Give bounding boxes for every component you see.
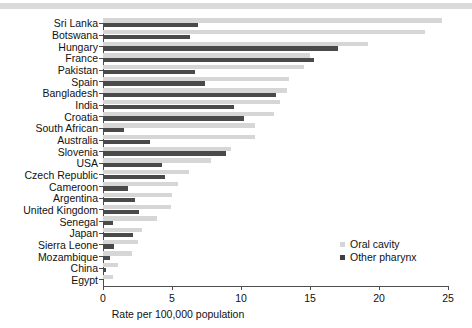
bar-oral-cavity bbox=[103, 18, 442, 22]
x-axis-tick-label: 0 bbox=[100, 292, 106, 304]
bar-other-pharynx bbox=[103, 70, 195, 74]
bar-row bbox=[103, 65, 448, 77]
x-axis-line bbox=[103, 286, 448, 287]
y-axis-category-label: Sri Lanka bbox=[54, 18, 98, 29]
y-axis-category-label: Croatia bbox=[64, 112, 98, 123]
bar-other-pharynx bbox=[103, 279, 104, 283]
y-axis-category-label: France bbox=[65, 53, 98, 64]
bar-oral-cavity bbox=[103, 100, 280, 104]
x-axis-tick bbox=[448, 286, 449, 290]
bar-oral-cavity bbox=[103, 158, 211, 162]
y-axis-category-label: Pakistan bbox=[58, 65, 98, 76]
x-axis-tick-label: 10 bbox=[235, 292, 247, 304]
bar-other-pharynx bbox=[103, 244, 114, 248]
bar-other-pharynx bbox=[103, 233, 133, 237]
bar-other-pharynx bbox=[103, 58, 314, 62]
bar-oral-cavity bbox=[103, 123, 255, 127]
y-axis-category-label: Egypt bbox=[71, 275, 98, 286]
x-axis-tick bbox=[103, 286, 104, 290]
bar-oral-cavity bbox=[103, 228, 142, 232]
x-axis-tick bbox=[241, 286, 242, 290]
bar-row bbox=[103, 88, 448, 100]
y-axis-category-label: Spain bbox=[71, 77, 98, 88]
legend-swatch-icon bbox=[340, 242, 345, 247]
y-axis-category-label: Botswana bbox=[52, 30, 98, 41]
bar-oral-cavity bbox=[103, 30, 425, 34]
bar-other-pharynx bbox=[103, 163, 162, 167]
bar-row bbox=[103, 263, 448, 275]
bar-other-pharynx bbox=[103, 221, 113, 225]
bar-other-pharynx bbox=[103, 128, 124, 132]
legend-item-other-pharynx: Other pharynx bbox=[340, 251, 417, 264]
y-axis-category-label: Hungary bbox=[58, 42, 98, 53]
legend-label: Other pharynx bbox=[350, 251, 417, 264]
bar-oral-cavity bbox=[103, 65, 304, 69]
bar-other-pharynx bbox=[103, 93, 276, 97]
x-axis-tick bbox=[310, 286, 311, 290]
x-axis-tick-label: 25 bbox=[442, 292, 454, 304]
bar-row bbox=[103, 41, 448, 53]
y-axis-category-label: United Kingdom bbox=[23, 205, 98, 216]
x-axis-title: Rate per 100,000 population bbox=[0, 308, 472, 320]
y-axis-category-label: Japan bbox=[69, 228, 98, 239]
bar-row bbox=[103, 135, 448, 147]
legend-item-oral-cavity: Oral cavity bbox=[340, 238, 417, 251]
y-axis-category-label: USA bbox=[76, 158, 98, 169]
bar-row bbox=[103, 169, 448, 181]
bar-other-pharynx bbox=[103, 198, 135, 202]
bar-row bbox=[103, 76, 448, 88]
bar-other-pharynx bbox=[103, 23, 198, 27]
bar-other-pharynx bbox=[103, 116, 244, 120]
bar-oral-cavity bbox=[103, 251, 132, 255]
bar-oral-cavity bbox=[103, 77, 289, 81]
x-axis-tick-label: 20 bbox=[373, 292, 385, 304]
bar-other-pharynx bbox=[103, 151, 226, 155]
bar-other-pharynx bbox=[103, 256, 110, 260]
y-axis-category-label: China bbox=[71, 263, 98, 274]
horizontal-bar-chart: Rate per 100,000 population Oral cavity … bbox=[0, 0, 472, 328]
y-axis-category-label: Argentina bbox=[53, 193, 98, 204]
chart-legend: Oral cavity Other pharynx bbox=[340, 238, 417, 264]
bar-row bbox=[103, 123, 448, 135]
y-axis-category-label: Mozambique bbox=[38, 252, 98, 263]
bar-row bbox=[103, 216, 448, 228]
bar-oral-cavity bbox=[103, 170, 189, 174]
bar-oral-cavity bbox=[103, 42, 368, 46]
bar-row bbox=[103, 146, 448, 158]
bar-row bbox=[103, 111, 448, 123]
y-axis-category-label: India bbox=[75, 100, 98, 111]
y-axis-category-label: Australia bbox=[57, 135, 98, 146]
bar-other-pharynx bbox=[103, 81, 205, 85]
bar-oral-cavity bbox=[103, 263, 118, 267]
y-axis-category-label: Cameroon bbox=[49, 182, 98, 193]
bar-row bbox=[103, 204, 448, 216]
bar-other-pharynx bbox=[103, 46, 338, 50]
bar-row bbox=[103, 181, 448, 193]
bar-oral-cavity bbox=[103, 182, 178, 186]
bar-row bbox=[103, 158, 448, 170]
bar-oral-cavity bbox=[103, 216, 157, 220]
bar-other-pharynx bbox=[103, 186, 128, 190]
bar-other-pharynx bbox=[103, 175, 165, 179]
bar-oral-cavity bbox=[103, 135, 255, 139]
x-axis-tick-label: 5 bbox=[169, 292, 175, 304]
bar-other-pharynx bbox=[103, 35, 190, 39]
bar-row bbox=[103, 274, 448, 286]
bar-oral-cavity bbox=[103, 53, 310, 57]
x-axis-tick-label: 15 bbox=[304, 292, 316, 304]
bar-oral-cavity bbox=[103, 193, 172, 197]
y-axis-category-label: Senegal bbox=[59, 217, 98, 228]
y-axis-category-label: Bangladesh bbox=[43, 88, 98, 99]
bar-oral-cavity bbox=[103, 147, 231, 151]
legend-swatch-icon bbox=[340, 255, 345, 260]
bar-other-pharynx bbox=[103, 105, 234, 109]
x-axis-tick bbox=[172, 286, 173, 290]
y-axis-category-label: Slovenia bbox=[58, 147, 98, 158]
bar-row bbox=[103, 100, 448, 112]
bar-oral-cavity bbox=[103, 205, 171, 209]
y-axis-category-label: Czech Republic bbox=[24, 170, 98, 181]
legend-label: Oral cavity bbox=[350, 238, 400, 251]
bar-row bbox=[103, 193, 448, 205]
bar-other-pharynx bbox=[103, 140, 150, 144]
bar-row bbox=[103, 18, 448, 30]
